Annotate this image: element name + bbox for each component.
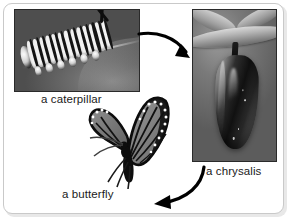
chrysalis-highlight-rim <box>217 60 227 139</box>
arrow-caterpillar-to-chrysalis <box>137 26 199 66</box>
caterpillar-photo <box>14 9 140 92</box>
label-caterpillar: a caterpillar <box>41 93 102 105</box>
label-chrysalis: a chrysalis <box>206 165 261 177</box>
chrysalis-photo <box>192 9 277 162</box>
chrysalis-gloss <box>227 68 238 111</box>
arrow-chrysalis-to-butterfly <box>130 163 208 211</box>
life-cycle-diagram: a caterpillar a chrysalis a butterfly <box>0 0 291 221</box>
label-butterfly: a butterfly <box>62 188 114 200</box>
butterfly-forewing <box>128 98 168 165</box>
